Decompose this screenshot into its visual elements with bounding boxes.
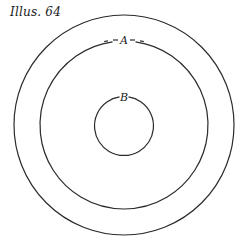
label-b: B [119, 91, 128, 104]
label-a: A [119, 34, 128, 47]
inner-circle [95, 97, 154, 156]
middle-circle-dash-left [104, 41, 108, 42]
outer-circle [14, 15, 234, 235]
middle-circle-dash-right [140, 41, 144, 42]
concentric-circles-diagram: A B [0, 0, 246, 248]
middle-circle [40, 42, 208, 209]
